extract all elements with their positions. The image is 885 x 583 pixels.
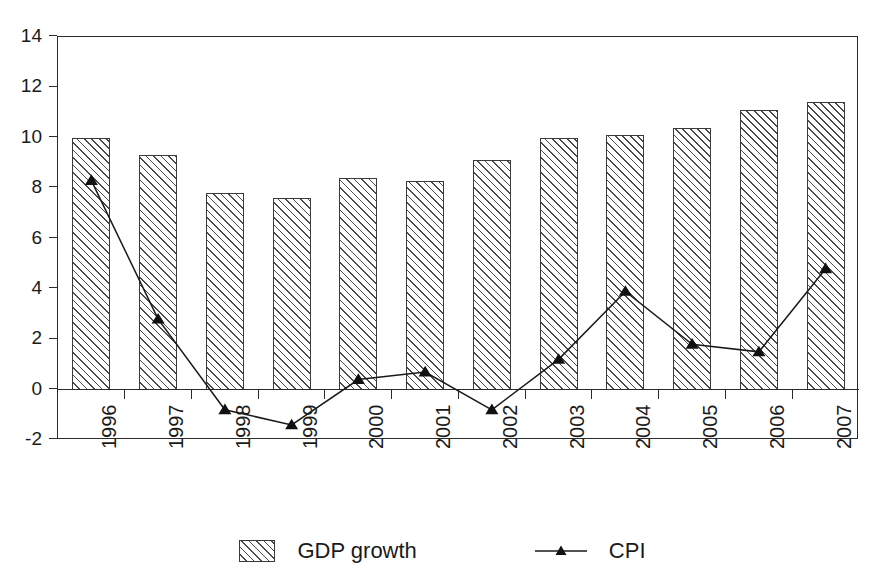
legend-label-cpi: CPI: [609, 540, 646, 562]
cpi-marker-1997: CPI 1997: 2.8: [152, 313, 165, 324]
y-axis-tick-label: 8: [8, 177, 42, 196]
legend-entry-cpi: CPI: [535, 540, 646, 562]
y-axis-tick-mark: [49, 86, 57, 87]
clipped-header-text: [560, 0, 880, 3]
x-axis-label-1999: 1999: [300, 405, 320, 450]
plot-area: CPI 1996: 8.3CPI 1997: 2.8CPI 1998: -0.8…: [57, 36, 858, 439]
cpi-marker-1996: CPI 1996: 8.3: [85, 174, 98, 185]
y-axis: -202468101214: [0, 0, 57, 583]
y-axis-tick-label: 6: [8, 228, 42, 247]
x-axis-label-1998: 1998: [233, 405, 253, 450]
y-axis-tick-mark: [49, 438, 57, 439]
y-axis-tick-mark: [49, 338, 57, 339]
y-axis-tick-mark: [49, 35, 57, 36]
gdp-cpi-chart-figure: -202468101214 CPI 1996: 8.3CPI 1997: 2.8…: [0, 0, 885, 583]
x-axis-label-2006: 2006: [767, 405, 787, 450]
y-axis-tick-label: 12: [8, 76, 42, 95]
y-axis-tick-label: 14: [8, 26, 42, 45]
y-axis-tick-label: 0: [8, 379, 42, 398]
y-axis-tick-mark: [49, 186, 57, 187]
x-axis-label-2002: 2002: [500, 405, 520, 450]
cpi-marker-2002: CPI 2002: -0.8: [485, 404, 498, 415]
y-axis-tick-mark: [49, 287, 57, 288]
legend-label-gdp-growth: GDP growth: [297, 540, 416, 562]
y-axis-tick-mark: [49, 136, 57, 137]
x-axis-label-2001: 2001: [433, 405, 453, 450]
cpi-marker-2005: CPI 2005: 1.8: [686, 338, 699, 349]
hatched-swatch-icon: [239, 540, 275, 562]
x-axis-label-1996: 1996: [99, 405, 119, 450]
x-axis-label-2007: 2007: [834, 405, 854, 450]
y-axis-tick-label: -2: [8, 429, 42, 448]
y-axis-tick-label: 4: [8, 278, 42, 297]
y-axis-tick-mark: [49, 388, 57, 389]
y-axis-tick-label: 2: [8, 328, 42, 347]
x-axis-label-2000: 2000: [366, 405, 386, 450]
legend-entry-gdp-growth: GDP growth: [239, 540, 416, 562]
cpi-marker-1998: CPI 1998: -0.8: [218, 404, 231, 415]
x-axis-label-1997: 1997: [166, 405, 186, 450]
x-axis-label-2003: 2003: [567, 405, 587, 450]
cpi-marker-2007: CPI 2007: 4.8: [819, 263, 832, 274]
chart-legend: GDP growth CPI: [0, 528, 885, 574]
y-axis-tick-mark: [49, 237, 57, 238]
x-axis-label-2004: 2004: [633, 405, 653, 450]
cpi-marker-2001: CPI 2001: 0.7: [419, 366, 432, 377]
cpi-polyline: [91, 181, 825, 425]
cpi-line-series: CPI 1996: 8.3CPI 1997: 2.8CPI 1998: -0.8…: [58, 37, 859, 440]
line-triangle-icon: [535, 543, 587, 559]
y-axis-tick-label: 10: [8, 127, 42, 146]
cpi-marker-2004: CPI 2004: 3.9: [619, 285, 632, 296]
x-axis-label-2005: 2005: [700, 405, 720, 450]
